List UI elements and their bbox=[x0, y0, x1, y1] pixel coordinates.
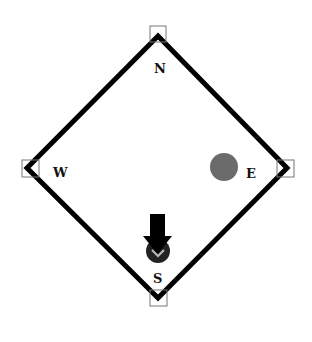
compass-diagram: N W E S bbox=[0, 0, 312, 342]
label-south: S bbox=[153, 271, 162, 286]
label-east: E bbox=[246, 166, 256, 181]
circle-marker bbox=[210, 153, 238, 181]
label-west: W bbox=[52, 165, 68, 180]
arrow-down-icon bbox=[143, 214, 172, 263]
label-north: N bbox=[154, 61, 166, 76]
